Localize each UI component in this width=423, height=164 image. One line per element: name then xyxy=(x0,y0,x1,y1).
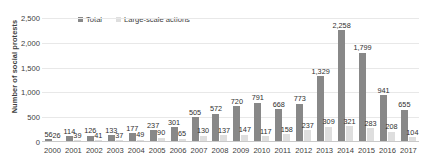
bar-group: 505130 xyxy=(189,18,210,142)
bar-group: 572137 xyxy=(210,18,231,142)
bar-total[interactable]: 720 xyxy=(233,106,240,142)
bar-group: 1,329309 xyxy=(314,18,335,142)
x-tick-label: 2006 xyxy=(168,146,189,155)
bar-value-label: 26 xyxy=(52,132,60,139)
bar-large-scale[interactable]: 309 xyxy=(325,127,332,142)
bar-value-label: 137 xyxy=(218,127,230,134)
bar-pair: 505130 xyxy=(192,18,207,142)
bar-value-label: 301 xyxy=(168,119,180,126)
bar-value-label: 283 xyxy=(364,120,376,127)
bar-total[interactable]: 1,799 xyxy=(359,53,366,142)
bar-value-label: 158 xyxy=(281,126,293,133)
bar-pair: 17749 xyxy=(129,18,144,142)
bar-value-label: 37 xyxy=(115,132,123,139)
y-tick-label: 1,000 xyxy=(2,88,40,97)
x-tick-label: 2004 xyxy=(126,146,147,155)
bar-group: 12641 xyxy=(84,18,105,142)
bar-value-label: 49 xyxy=(136,131,144,138)
y-tick-label: 1,500 xyxy=(2,63,40,72)
bar-group: 1,799283 xyxy=(356,18,377,142)
y-tick-label: 500 xyxy=(2,113,40,122)
x-tick-label: 2009 xyxy=(230,146,251,155)
bar-value-label: 147 xyxy=(239,126,251,133)
bar-pair: 11439 xyxy=(66,18,81,142)
bar-value-label: 39 xyxy=(73,132,81,139)
x-tick-label: 2005 xyxy=(147,146,168,155)
y-tick-label: 2,000 xyxy=(2,38,40,47)
bar-total[interactable]: 941 xyxy=(380,95,387,142)
bar-value-label: 309 xyxy=(323,118,335,125)
bar-value-label: 321 xyxy=(344,118,356,125)
x-axis-tick-labels: 2000200120022003200420052006200720082009… xyxy=(42,146,419,155)
bar-value-label: 773 xyxy=(294,95,306,102)
x-tick-label: 2008 xyxy=(210,146,231,155)
bar-pair: 2,258321 xyxy=(338,18,353,142)
bar-value-label: 1,799 xyxy=(353,44,371,51)
x-tick-label: 2016 xyxy=(377,146,398,155)
bar-value-label: 208 xyxy=(385,123,397,130)
bar-value-label: 130 xyxy=(197,127,209,134)
bar-value-label: 65 xyxy=(178,130,186,137)
x-tick-label: 2001 xyxy=(63,146,84,155)
bar-chart: Number of social protests 05001,0001,500… xyxy=(0,0,423,164)
x-tick-label: 2007 xyxy=(189,146,210,155)
x-tick-label: 2015 xyxy=(356,146,377,155)
bar-group: 720147 xyxy=(230,18,251,142)
bar-value-label: 1,329 xyxy=(312,68,330,75)
bar-pair: 668158 xyxy=(275,18,290,142)
bar-value-label: 791 xyxy=(252,94,264,101)
bar-value-label: 655 xyxy=(398,101,410,108)
bar-pair: 791117 xyxy=(254,18,269,142)
bar-pair: 941208 xyxy=(380,18,395,142)
bar-group: 11439 xyxy=(63,18,84,142)
x-tick-label: 2000 xyxy=(42,146,63,155)
x-tick-label: 2010 xyxy=(251,146,272,155)
bar-pair: 5626 xyxy=(45,18,60,142)
y-axis-tick-labels: 05001,0001,5002,0002,500 xyxy=(0,18,40,142)
x-tick-label: 2013 xyxy=(314,146,335,155)
bar-value-label: 505 xyxy=(189,109,201,116)
bar-pair: 23790 xyxy=(150,18,165,142)
bar-value-label: 90 xyxy=(157,129,165,136)
bar-value-label: 720 xyxy=(231,98,243,105)
x-tick-label: 2003 xyxy=(105,146,126,155)
x-tick-label: 2012 xyxy=(293,146,314,155)
bar-group: 23790 xyxy=(147,18,168,142)
plot-area: 5626114391264113337177492379030165505130… xyxy=(42,18,419,142)
bar-group: 2,258321 xyxy=(335,18,356,142)
bar-pair: 1,329309 xyxy=(317,18,332,142)
bar-group: 668158 xyxy=(272,18,293,142)
bar-total[interactable]: 791 xyxy=(254,103,261,142)
bar-pair: 1,799283 xyxy=(359,18,374,142)
bar-pair: 13337 xyxy=(108,18,123,142)
bar-large-scale[interactable]: 283 xyxy=(367,128,374,142)
x-tick-label: 2017 xyxy=(398,146,419,155)
bar-total[interactable]: 301 xyxy=(171,127,178,142)
bar-large-scale[interactable]: 321 xyxy=(346,126,353,142)
bar-value-label: 2,258 xyxy=(332,22,350,29)
bar-value-label: 237 xyxy=(302,122,314,129)
bar-group: 791117 xyxy=(251,18,272,142)
bar-pair: 655104 xyxy=(401,18,416,142)
bar-pair: 720147 xyxy=(233,18,248,142)
x-axis-baseline xyxy=(42,141,419,142)
bar-group: 17749 xyxy=(126,18,147,142)
bar-group: 13337 xyxy=(105,18,126,142)
bar-group: 773237 xyxy=(293,18,314,142)
bar-group: 30165 xyxy=(168,18,189,142)
y-tick-label: 0 xyxy=(2,138,40,147)
x-tick-label: 2011 xyxy=(272,146,293,155)
bar-groups: 5626114391264113337177492379030165505130… xyxy=(42,18,419,142)
y-tick-label: 2,500 xyxy=(2,14,40,23)
bar-value-label: 572 xyxy=(210,105,222,112)
bar-total[interactable]: 655 xyxy=(401,110,408,142)
x-tick-label: 2014 xyxy=(335,146,356,155)
bar-pair: 12641 xyxy=(87,18,102,142)
bar-total[interactable]: 1,329 xyxy=(317,76,324,142)
bar-group: 5626 xyxy=(42,18,63,142)
x-tick-label: 2002 xyxy=(84,146,105,155)
bar-value-label: 56 xyxy=(44,131,52,138)
bar-value-label: 941 xyxy=(377,87,389,94)
bar-group: 941208 xyxy=(377,18,398,142)
bar-pair: 30165 xyxy=(171,18,186,142)
